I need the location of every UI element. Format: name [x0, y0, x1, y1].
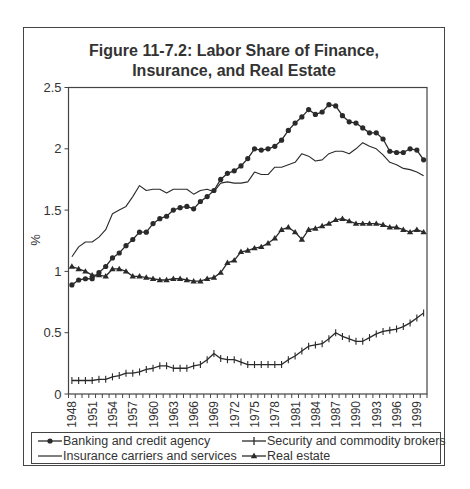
- legend-label: Insurance carriers and services: [63, 449, 237, 463]
- data-point: [299, 114, 304, 119]
- data-point: [259, 147, 264, 152]
- data-point: [279, 138, 284, 143]
- data-point: [225, 171, 230, 176]
- y-tick-label: 2: [54, 141, 61, 156]
- data-point: [117, 250, 122, 255]
- y-tick-label: 0.5: [43, 325, 61, 340]
- data-point: [103, 264, 108, 269]
- series-security-and-commodity-brokers: [72, 310, 424, 384]
- legend-label: Security and commodity brokers: [267, 434, 446, 448]
- data-point: [164, 214, 169, 219]
- data-point: [285, 224, 291, 229]
- x-tick-label: 1987: [329, 401, 343, 428]
- x-tick-label: 1990: [349, 401, 363, 428]
- x-tick-label: 1993: [370, 401, 384, 428]
- data-point: [191, 206, 196, 211]
- x-tick-label: 1960: [147, 401, 161, 428]
- data-point: [414, 147, 419, 152]
- data-point: [69, 263, 75, 268]
- data-point: [144, 230, 149, 235]
- legend-label: Real estate: [267, 449, 330, 463]
- x-tick-label: 1957: [126, 401, 140, 428]
- legend-marker-plus-icon: [242, 434, 266, 448]
- data-point: [137, 230, 142, 235]
- data-point: [414, 227, 420, 232]
- data-point: [245, 156, 250, 161]
- data-point: [326, 102, 331, 107]
- data-point: [339, 215, 345, 220]
- x-tick-label: 1951: [86, 401, 100, 428]
- data-point: [69, 282, 74, 287]
- legend: Banking and credit agency Security and c…: [31, 432, 441, 464]
- data-point: [407, 146, 412, 151]
- legend-marker-triangle-icon: [242, 449, 266, 463]
- data-point: [150, 221, 155, 226]
- data-point: [374, 130, 379, 135]
- legend-line-icon: [38, 449, 62, 463]
- y-axis-label: %: [28, 234, 43, 246]
- data-point: [171, 208, 176, 213]
- line-chart: 00.511.522.51948195119541957196019631966…: [0, 0, 470, 489]
- x-tick-label: 1963: [167, 401, 181, 428]
- data-point: [353, 120, 358, 125]
- data-point: [401, 150, 406, 155]
- y-tick-label: 1.5: [43, 203, 61, 218]
- x-tick-label: 1996: [390, 401, 404, 428]
- y-tick-label: 0: [54, 387, 61, 402]
- data-point: [340, 113, 345, 118]
- x-tick-label: 1981: [289, 401, 303, 428]
- x-tick-label: 1978: [268, 401, 282, 428]
- data-point: [76, 277, 81, 282]
- x-tick-label: 1972: [228, 401, 242, 428]
- data-point: [123, 243, 128, 248]
- series-layer: [69, 102, 427, 384]
- y-tick-label: 2.5: [43, 80, 61, 95]
- data-point: [421, 157, 426, 162]
- data-point: [333, 103, 338, 108]
- legend-marker-circle-icon: [38, 434, 62, 448]
- data-point: [157, 216, 162, 221]
- y-tick-label: 1: [54, 264, 61, 279]
- data-point: [83, 276, 88, 281]
- data-point: [387, 149, 392, 154]
- legend-label: Banking and credit agency: [63, 434, 210, 448]
- data-point: [184, 204, 189, 209]
- data-point: [178, 205, 183, 210]
- data-point: [286, 128, 291, 133]
- data-point: [367, 130, 372, 135]
- data-point: [252, 146, 257, 151]
- data-point: [205, 194, 210, 199]
- data-point: [306, 107, 311, 112]
- series-line: [72, 313, 424, 380]
- data-point: [292, 120, 297, 125]
- x-tick-label: 1984: [309, 401, 323, 428]
- data-point: [272, 144, 277, 149]
- x-tick-label: 1948: [65, 401, 79, 428]
- series-banking-and-credit-agency: [69, 102, 426, 287]
- data-point: [320, 109, 325, 114]
- data-point: [130, 237, 135, 242]
- x-tick-label: 1999: [410, 401, 424, 428]
- data-point: [198, 199, 203, 204]
- x-tick-label: 1966: [187, 401, 201, 428]
- data-point: [238, 163, 243, 168]
- data-point: [265, 146, 270, 151]
- x-tick-label: 1975: [248, 401, 262, 428]
- data-point: [360, 125, 365, 130]
- data-point: [218, 177, 223, 182]
- data-point: [232, 168, 237, 173]
- data-point: [380, 136, 385, 141]
- x-tick-label: 1969: [207, 401, 221, 428]
- data-point: [347, 119, 352, 124]
- data-point: [394, 150, 399, 155]
- data-point: [110, 255, 115, 260]
- x-tick-label: 1954: [106, 401, 120, 428]
- data-point: [313, 112, 318, 117]
